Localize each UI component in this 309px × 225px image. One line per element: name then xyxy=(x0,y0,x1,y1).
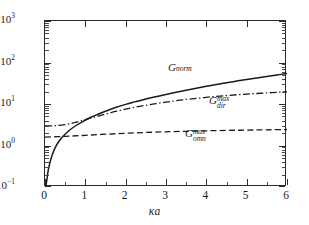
y-minor-tick xyxy=(45,116,49,117)
x-minor-tick xyxy=(65,182,66,186)
y-minor-tick-right xyxy=(282,67,286,68)
y-minor-tick-right xyxy=(282,79,286,80)
y-minor-tick xyxy=(45,108,49,109)
annotation-g-omn-base: G xyxy=(185,127,193,139)
y-minor-tick-right xyxy=(282,106,286,107)
annotation-g-norm-base: G xyxy=(168,61,176,73)
y-minor-tick xyxy=(45,25,49,26)
y-minor-tick-right xyxy=(282,110,286,111)
x-tick-label-3: 3 xyxy=(153,190,177,202)
x-minor-tick xyxy=(267,182,268,186)
y-minor-tick-right xyxy=(282,25,286,26)
x-minor-tick xyxy=(186,182,187,186)
x-minor-tick xyxy=(106,182,107,186)
y-minor-tick xyxy=(45,64,49,65)
y-minor-tick-right xyxy=(282,75,286,76)
figure-chart-gain-vs-ka: 103 102 101 100 10−1 0 1 2 3 4 5 6 κa xyxy=(0,0,309,225)
y-minor-tick xyxy=(45,67,49,68)
y-minor-tick-right xyxy=(282,162,286,163)
y-minor-tick xyxy=(45,158,49,159)
y-minor-tick xyxy=(45,106,49,107)
y-minor-tick xyxy=(45,162,49,163)
y-minor-tick xyxy=(45,84,49,85)
y-minor-tick xyxy=(45,69,49,70)
y-minor-tick xyxy=(45,110,49,111)
y-minor-tick xyxy=(45,113,49,114)
y-minor-tick xyxy=(45,147,49,148)
x-tick-label-2: 2 xyxy=(113,190,137,202)
y-minor-tick xyxy=(45,150,49,151)
annotation-g-norm: Gnorm xyxy=(168,62,192,73)
y-minor-tick-right xyxy=(282,126,286,127)
y-minor-tick-right xyxy=(282,50,286,51)
y-minor-tick xyxy=(45,38,49,39)
x-minor-tick xyxy=(227,182,228,186)
annotation-g-dir-sub: dir xyxy=(217,102,230,109)
x-minor-tick xyxy=(146,182,147,186)
annotation-g-dir-base: G xyxy=(209,94,217,106)
y-minor-tick xyxy=(45,72,49,73)
x-tick-label-5: 5 xyxy=(234,190,258,202)
y-tick-label-1000: 103 xyxy=(0,14,15,25)
x-tick-label-1: 1 xyxy=(72,190,96,202)
y-minor-tick-right xyxy=(282,167,286,168)
y-minor-tick xyxy=(45,50,49,51)
y-minor-tick-right xyxy=(282,133,286,134)
curve-g-dir-max xyxy=(45,92,287,126)
curve-canvas xyxy=(45,21,287,187)
y-minor-tick xyxy=(45,43,49,44)
y-minor-tick xyxy=(45,30,49,31)
x-tick-label-0: 0 xyxy=(32,190,56,202)
y-minor-tick-right xyxy=(282,147,286,148)
y-minor-tick-right xyxy=(282,108,286,109)
y-minor-tick-right xyxy=(282,121,286,122)
y-minor-tick xyxy=(45,155,49,156)
y-minor-tick xyxy=(45,23,49,24)
y-minor-tick xyxy=(45,33,49,34)
y-minor-tick-right xyxy=(282,116,286,117)
y-minor-tick-right xyxy=(282,158,286,159)
y-minor-tick xyxy=(45,167,49,168)
plot-area xyxy=(44,20,286,186)
y-minor-tick-right xyxy=(282,150,286,151)
annotation-g-dir-max: Gmaxdir xyxy=(209,94,229,108)
y-minor-tick-right xyxy=(282,30,286,31)
y-minor-tick-right xyxy=(282,84,286,85)
y-minor-tick xyxy=(45,75,49,76)
y-minor-tick-right xyxy=(282,92,286,93)
y-minor-tick-right xyxy=(282,152,286,153)
y-minor-tick-right xyxy=(282,113,286,114)
y-minor-tick xyxy=(45,175,49,176)
y-minor-tick-right xyxy=(282,64,286,65)
y-minor-tick xyxy=(45,126,49,127)
x-axis-title: κa xyxy=(0,205,309,217)
curve-g-omn-max xyxy=(45,130,287,138)
y-minor-tick-right xyxy=(282,38,286,39)
y-minor-tick-right xyxy=(282,33,286,34)
y-tick-label-100: 102 xyxy=(0,56,15,67)
annotation-g-omn-sub: omn xyxy=(193,135,206,142)
y-tick-label-0.1: 10−1 xyxy=(0,180,15,191)
y-tick-label-1: 100 xyxy=(0,139,15,150)
y-minor-tick-right xyxy=(282,72,286,73)
y-minor-tick xyxy=(45,133,49,134)
y-minor-tick-right xyxy=(282,23,286,24)
y-minor-tick-right xyxy=(282,69,286,70)
y-minor-tick xyxy=(45,152,49,153)
y-minor-tick-right xyxy=(282,27,286,28)
annotation-g-norm-sub: norm xyxy=(176,64,192,73)
y-minor-tick xyxy=(45,79,49,80)
y-minor-tick xyxy=(45,92,49,93)
y-minor-tick-right xyxy=(282,175,286,176)
x-tick-label-4: 4 xyxy=(193,190,217,202)
y-minor-tick xyxy=(45,121,49,122)
x-tick-label-6: 6 xyxy=(274,190,298,202)
y-minor-tick-right xyxy=(282,43,286,44)
y-minor-tick xyxy=(45,27,49,28)
annotation-g-omn-max: Gmaxomn xyxy=(185,127,206,141)
y-tick-label-10: 101 xyxy=(0,97,15,108)
y-minor-tick-right xyxy=(282,155,286,156)
